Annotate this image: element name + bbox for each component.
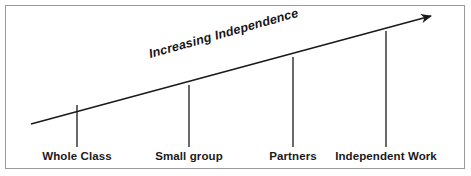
stage-label-partners: Partners (269, 150, 316, 162)
stage-label-independent-work: Independent Work (335, 150, 437, 162)
stage-label-whole-class: Whole Class (42, 150, 111, 162)
tick-group (77, 31, 386, 147)
figure-root: Increasing Independence Whole Class Smal… (0, 0, 471, 176)
stage-label-small-group: Small group (155, 150, 223, 162)
